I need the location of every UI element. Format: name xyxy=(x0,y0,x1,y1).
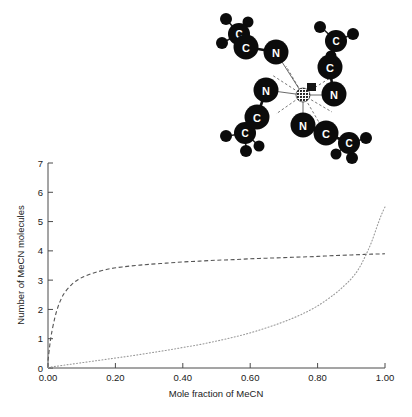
atom-label-methyl-lower-left: C xyxy=(241,128,248,139)
y-tick-label-4: 4 xyxy=(38,245,43,256)
atom-label-nitrogen-lower-left: N xyxy=(262,85,270,97)
atom-label-nitrogen-lower-right: N xyxy=(299,120,307,132)
atom-label-nitrogen-upper-right: N xyxy=(330,89,338,101)
x-axis-tick-labels: 0.00 0.20 0.40 0.60 0.80 1.00 xyxy=(39,372,395,383)
series-first-shell-dashed xyxy=(48,254,385,361)
y-tick-label-2: 2 xyxy=(38,304,43,315)
y-tick-label-6: 6 xyxy=(38,187,43,198)
y-axis-tick-labels: 0 1 2 3 4 5 6 7 xyxy=(38,158,43,374)
atom-label-carbon-lower-right: C xyxy=(322,128,330,140)
atom-label-carbon-upper-left: C xyxy=(242,42,250,54)
series-second-shell-dotted xyxy=(48,207,385,367)
x-axis-ticks xyxy=(48,363,385,368)
y-tick-label-7: 7 xyxy=(38,158,43,169)
molecule-inset: C C C C C C C C N xyxy=(216,13,372,164)
figure-canvas: C C C C C C C C N xyxy=(0,0,412,417)
central-metal-atom xyxy=(296,83,316,102)
x-tick-label-4: 0.80 xyxy=(308,372,327,383)
x-tick-label-1: 0.20 xyxy=(106,372,125,383)
x-tick-label-5: 1.00 xyxy=(376,372,395,383)
plot-area: 0 1 2 3 4 5 6 7 0.00 0.20 0.40 xyxy=(15,158,394,400)
x-tick-label-2: 0.40 xyxy=(174,372,193,383)
y-tick-label-5: 5 xyxy=(38,216,43,227)
figure-root: C C C C C C C C N xyxy=(0,0,412,417)
y-tick-label-3: 3 xyxy=(38,275,43,286)
y-axis-title: Number of MeCN molecules xyxy=(15,205,26,325)
x-tick-label-0: 0.00 xyxy=(39,372,58,383)
x-axis-title: Mole fraction of MeCN xyxy=(169,388,264,399)
y-tick-label-1: 1 xyxy=(38,333,43,344)
atom-label-carbon-lower-left: C xyxy=(253,112,261,124)
x-tick-label-3: 0.60 xyxy=(241,372,260,383)
atom-label-nitrogen-upper-left: N xyxy=(272,47,280,59)
atom-label-carbon-upper-right: C xyxy=(326,62,334,74)
atom-label-methyl-upper-right: C xyxy=(332,36,339,47)
atom-label-methyl-lower-right: C xyxy=(345,138,352,149)
